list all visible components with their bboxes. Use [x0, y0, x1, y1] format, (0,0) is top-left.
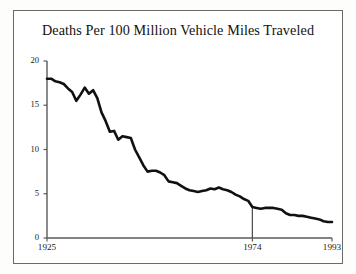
- y-tick-label: 5: [19, 188, 39, 198]
- axes-group: [47, 61, 332, 238]
- y-tick-label: 15: [19, 99, 39, 109]
- x-tick-label: 1993: [312, 242, 352, 252]
- y-tick-label: 20: [19, 55, 39, 65]
- line-chart-plot: [0, 0, 356, 274]
- y-tick-label: 0: [19, 232, 39, 242]
- y-tick-label: 10: [19, 144, 39, 154]
- figure-container: Deaths Per 100 Million Vehicle Miles Tra…: [0, 0, 356, 274]
- data-series-line: [47, 79, 332, 222]
- x-tick-label: 1925: [27, 242, 67, 252]
- x-tick-label: 1974: [232, 242, 272, 252]
